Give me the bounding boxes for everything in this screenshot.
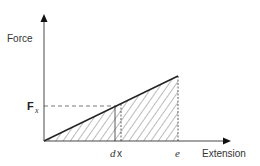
- force-marker-subscript: x: [34, 106, 39, 115]
- force-extension-diagram: Force Extension F x d x e: [0, 0, 260, 166]
- dx-label-d: d: [110, 147, 116, 159]
- y-axis-arrow-icon: [41, 14, 48, 22]
- e-label: e: [175, 147, 180, 159]
- y-axis-label: Force: [7, 33, 33, 44]
- dx-label-x: x: [117, 148, 122, 159]
- force-marker-label: F: [27, 100, 34, 112]
- x-axis-label: Extension: [202, 148, 246, 159]
- x-axis-arrow-icon: [223, 138, 231, 145]
